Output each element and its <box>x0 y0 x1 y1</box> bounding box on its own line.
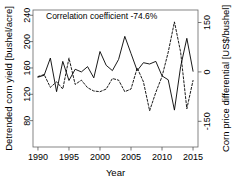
y-axis-left-title: Detrended corn yield [bushel/acre] <box>3 6 14 151</box>
y-axis-left-tick-label: 200 <box>22 34 32 49</box>
correlation-annotation: Correlation coefficient -74.6% <box>46 11 158 21</box>
plot-frame <box>33 10 198 147</box>
y-axis-right-title: Corn price differential [US$/bushel] <box>220 5 231 152</box>
y-axis-right-tick-label: -150 <box>202 112 212 130</box>
x-axis-tick-label: 1990 <box>28 152 48 162</box>
x-axis-tick-label: 1995 <box>59 152 79 162</box>
series-line-yield <box>38 36 193 110</box>
x-axis-title: Year <box>106 167 125 178</box>
corn-yield-price-chart: 199019952000200520102015Year801201602002… <box>0 0 232 182</box>
x-axis-tick-label: 2005 <box>121 152 141 162</box>
chart-figure: 199019952000200520102015Year801201602002… <box>0 0 232 182</box>
y-axis-right-tick-label: 150 <box>202 15 212 30</box>
x-axis-tick-label: 2015 <box>183 152 203 162</box>
x-axis-tick-label: 2010 <box>152 152 172 162</box>
y-axis-left-tick-label: 120 <box>22 87 32 102</box>
series-line-price <box>38 22 193 111</box>
y-axis-left-tick-label: 240 <box>22 8 32 23</box>
x-axis-tick-label: 2000 <box>90 152 110 162</box>
y-axis-left-tick-label: 80 <box>22 116 32 126</box>
y-axis-left-tick-label: 160 <box>22 60 32 75</box>
y-axis-right-tick-label: 0 <box>202 69 212 74</box>
